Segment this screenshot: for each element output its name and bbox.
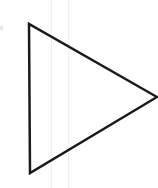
triangle-shape: [29, 24, 157, 173]
play-triangle-icon: [0, 0, 158, 188]
diagram-canvas: [0, 0, 158, 188]
